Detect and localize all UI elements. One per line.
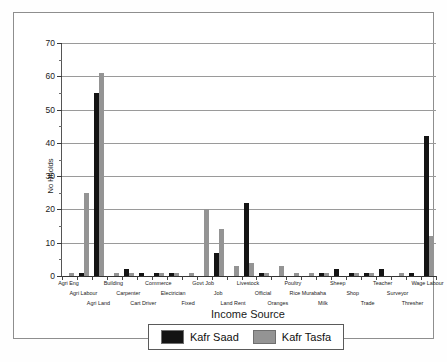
bar-kafr-tasfa [249, 263, 254, 276]
y-tick-minor [59, 60, 62, 61]
y-tick-label: 70 [46, 39, 55, 47]
bar-kafr-tasfa [369, 273, 374, 276]
bar-kafr-tasfa [279, 266, 284, 276]
bar-kafr-tasfa [294, 273, 299, 276]
x-axis-label: Milk [318, 300, 328, 306]
bar-kafr-tasfa [204, 209, 209, 276]
y-tick-minor [59, 226, 62, 227]
y-tick-major [57, 76, 62, 77]
x-axis-label: Shop [346, 290, 359, 296]
bar-kafr-tasfa [159, 273, 164, 276]
x-tick [137, 276, 138, 280]
bar-group [244, 43, 254, 276]
x-axis-label: Teacher [373, 280, 392, 286]
y-tick-label: 50 [46, 106, 55, 114]
x-axis-label: Thresher [402, 300, 424, 306]
x-axis-label: Agri Eng [58, 280, 79, 286]
bar-kafr-tasfa [264, 273, 269, 276]
bottom-caption [14, 352, 134, 359]
bar-group [124, 43, 134, 276]
bar-kafr-saad [379, 269, 384, 276]
y-tick-major [57, 176, 62, 177]
y-tick-label: 0 [50, 272, 55, 280]
bar-group [94, 43, 104, 276]
x-tick [406, 276, 407, 280]
x-axis-label: Sheep [330, 280, 346, 286]
bar-group [274, 43, 284, 276]
bar-kafr-tasfa [324, 273, 329, 276]
bar-kafr-saad [139, 273, 144, 276]
figure-container: No Hholds 010203040506070 Agri EngAgri L… [0, 0, 447, 362]
x-axis-label: Electrician [161, 290, 186, 296]
bar-group [154, 43, 164, 276]
bar-kafr-tasfa [129, 273, 134, 276]
bar-kafr-tasfa [189, 273, 194, 276]
y-tick-label: 40 [46, 139, 55, 147]
bar-group [409, 43, 419, 276]
bar-kafr-tasfa [69, 273, 74, 276]
x-tick [301, 276, 302, 280]
bar-group [364, 43, 374, 276]
bar-group [184, 43, 194, 276]
legend-label-kafr-saad: Kafr Saad [190, 331, 239, 343]
x-axis-title: Income Source [61, 308, 435, 320]
x-axis-label: Land Rent [221, 300, 246, 306]
bar-kafr-tasfa [234, 266, 239, 276]
y-tick-minor [59, 126, 62, 127]
kafr-tasfa-swatch-icon [253, 330, 276, 344]
y-tick-label: 10 [46, 239, 55, 247]
y-tick-label: 60 [46, 72, 55, 80]
y-tick-label: 30 [46, 172, 55, 180]
plot-area: 010203040506070 [61, 43, 436, 277]
bar-group [79, 43, 89, 276]
x-axis-label: Govt Job [192, 280, 214, 286]
bar-group [424, 43, 434, 276]
x-tick [316, 276, 317, 280]
x-axis-label: Agri Land [87, 300, 110, 306]
x-axis-label: Wage Labour [411, 280, 443, 286]
bar-group [139, 43, 149, 276]
bar-kafr-tasfa [429, 236, 434, 276]
bar-group [259, 43, 269, 276]
x-axis-label: Rice Murabaha [290, 290, 327, 296]
y-tick-major [57, 143, 62, 144]
x-axis-label: Fixed [182, 300, 195, 306]
bar-kafr-tasfa [399, 273, 404, 276]
bar-group [169, 43, 179, 276]
bar-kafr-tasfa [84, 193, 89, 276]
bar-kafr-tasfa [219, 229, 224, 276]
bar-group [349, 43, 359, 276]
bar-group [229, 43, 239, 276]
x-axis-label: Cart Driver [130, 300, 156, 306]
bar-group [334, 43, 344, 276]
kafr-saad-swatch-icon [161, 330, 184, 344]
y-tick-minor [59, 160, 62, 161]
bar-group [394, 43, 404, 276]
y-tick-major [57, 110, 62, 111]
bar-group [64, 43, 74, 276]
bar-kafr-tasfa [174, 273, 179, 276]
bar-kafr-tasfa [99, 73, 104, 276]
legend-entry-kafr-saad: Kafr Saad [161, 330, 239, 344]
bar-kafr-saad [409, 273, 414, 276]
x-tick [92, 276, 93, 280]
x-tick [346, 276, 347, 280]
y-tick-minor [59, 93, 62, 94]
bar-group [109, 43, 119, 276]
x-tick [227, 276, 228, 280]
legend-label-kafr-tasfa: Kafr Tasfa [282, 331, 331, 343]
bar-group [214, 43, 224, 276]
x-axis-label: Job [214, 290, 223, 296]
bar-group [304, 43, 314, 276]
x-axis-label: Livestock [237, 280, 259, 286]
bar-group [319, 43, 329, 276]
y-tick-major [57, 243, 62, 244]
x-tick [361, 276, 362, 280]
y-tick-major [57, 43, 62, 44]
x-axis-label: Official [255, 290, 271, 296]
bar-group [289, 43, 299, 276]
bar-kafr-saad [334, 269, 339, 276]
x-tick [271, 276, 272, 280]
x-axis-label: Carpenter [116, 290, 140, 296]
x-axis-label: Surveyor [387, 290, 409, 296]
